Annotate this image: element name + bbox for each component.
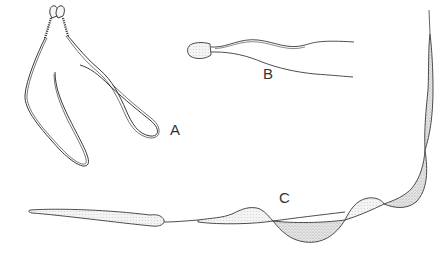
figure-b-flagellum-upper: [215, 40, 354, 47]
figure-c-tail: [425, 34, 433, 150]
figure-b-head: [188, 43, 211, 59]
label-a: A: [170, 122, 180, 137]
figure-c-membrane-3: [345, 198, 384, 220]
figure-c: [29, 10, 433, 242]
label-c: C: [279, 190, 290, 205]
figure-a: [25, 6, 159, 166]
figure-c-membrane-4: [384, 150, 427, 208]
figure-c-body: [29, 209, 164, 226]
illustration-canvas: [0, 0, 447, 257]
label-b: B: [263, 66, 273, 81]
figure-c-membrane-2: [273, 220, 345, 242]
figure-c-membrane-1: [198, 208, 273, 224]
figure-a-flagellum-left: [25, 38, 89, 166]
figure-b-flagellum-lower: [215, 52, 353, 77]
figure-a-flagellum-right: [68, 36, 158, 136]
figure-a-head-right: [56, 6, 64, 18]
